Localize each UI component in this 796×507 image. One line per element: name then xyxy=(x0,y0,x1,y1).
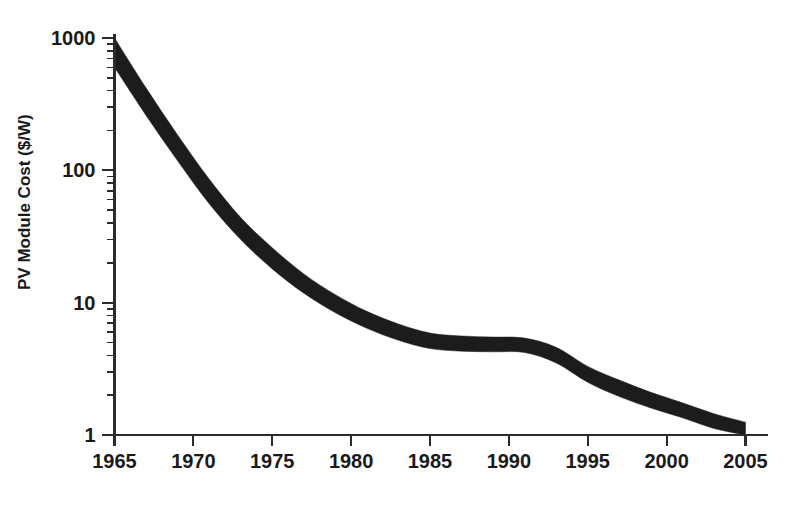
chart-container: 1000100101 19651970197519801985199019952… xyxy=(0,0,796,507)
x-tick-label: 2005 xyxy=(723,450,768,472)
pv-module-cost-chart: 1000100101 19651970197519801985199019952… xyxy=(0,0,796,507)
x-tick-label: 1970 xyxy=(171,450,216,472)
x-tick-label: 1965 xyxy=(92,450,137,472)
chart-background xyxy=(0,0,796,507)
x-tick-label: 1995 xyxy=(566,450,611,472)
x-tick-label: 1980 xyxy=(329,450,374,472)
x-axis-tick-labels: 196519701975198019851990199520002005 xyxy=(92,450,768,472)
y-tick-label: 1 xyxy=(84,424,95,446)
x-tick-label: 2000 xyxy=(644,450,689,472)
x-tick-label: 1985 xyxy=(408,450,453,472)
y-axis-title: PV Module Cost ($/W) xyxy=(15,114,34,290)
x-tick-label: 1975 xyxy=(250,450,295,472)
y-tick-label: 1000 xyxy=(51,27,96,49)
y-tick-label: 10 xyxy=(73,292,95,314)
y-tick-label: 100 xyxy=(62,159,95,181)
x-tick-label: 1990 xyxy=(487,450,532,472)
